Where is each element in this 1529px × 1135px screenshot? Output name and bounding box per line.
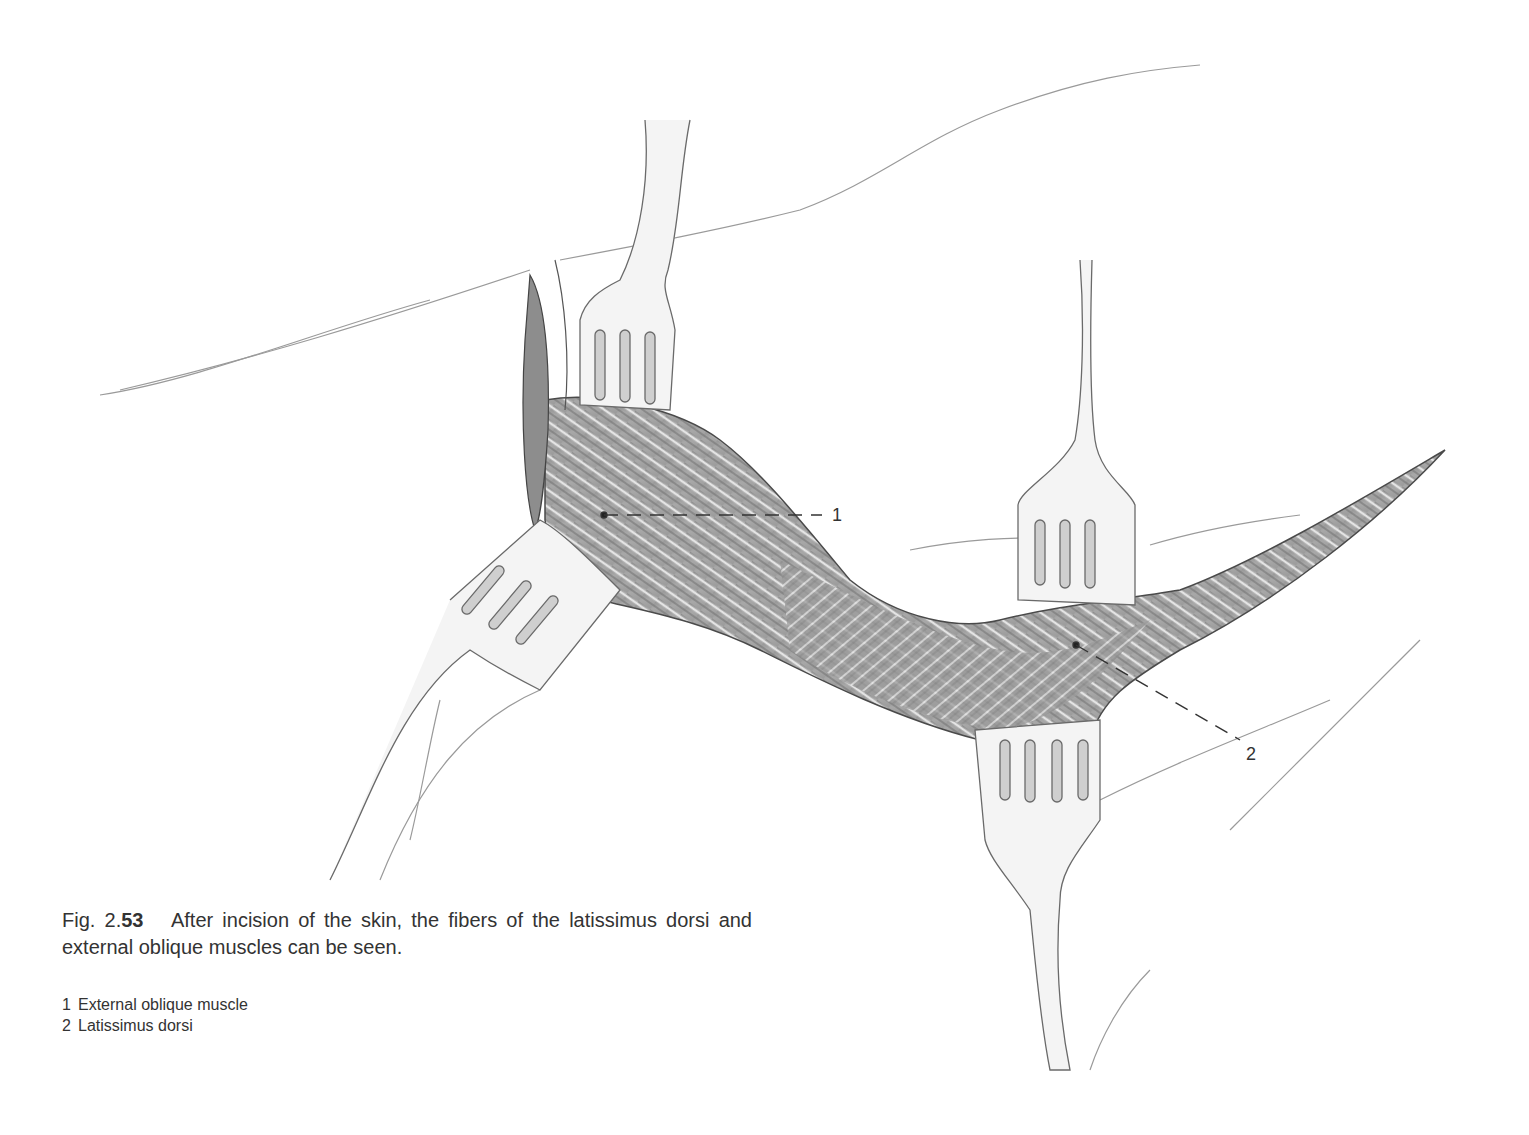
- legend-number: 2: [62, 1015, 78, 1036]
- callout-label-1: 1: [832, 505, 842, 526]
- figure-caption: Fig. 2.53 After incision of the skin, th…: [62, 907, 752, 961]
- figure-legend: 1External oblique muscle 2Latissimus dor…: [62, 994, 248, 1036]
- figure-number-prefix: Fig. 2.: [62, 909, 121, 931]
- figure-number: 53: [121, 909, 143, 931]
- legend-item: 1External oblique muscle: [62, 994, 248, 1015]
- callout-label-2: 2: [1246, 744, 1256, 765]
- legend-number: 1: [62, 994, 78, 1015]
- caption-text: After incision of the skin, the fibers o…: [62, 909, 752, 958]
- legend-text: Latissimus dorsi: [78, 1017, 193, 1034]
- legend-text: External oblique muscle: [78, 996, 248, 1013]
- legend-item: 2Latissimus dorsi: [62, 1015, 248, 1036]
- surgical-illustration: [0, 0, 1529, 1135]
